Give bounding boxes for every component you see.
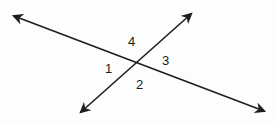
line-a <box>14 16 264 111</box>
angle-label-2: 2 <box>136 77 143 92</box>
intersecting-lines-diagram: 4 1 3 2 <box>0 0 277 125</box>
angle-label-3: 3 <box>162 53 169 68</box>
line-b <box>81 14 191 112</box>
angle-label-4: 4 <box>128 34 135 49</box>
angle-label-1: 1 <box>105 61 112 76</box>
